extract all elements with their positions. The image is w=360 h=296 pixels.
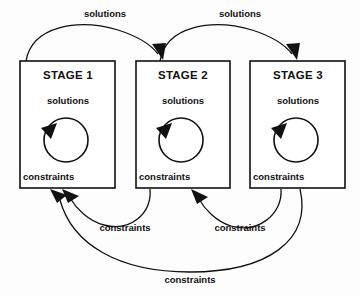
edge-solutions-stage1-stage2 — [26, 25, 166, 61]
edge-label-solutions-1-2: solutions — [84, 8, 126, 19]
stage-2-title: STAGE 2 — [158, 69, 208, 81]
stage-node-1[interactable]: STAGE 1 solutions constraints — [20, 61, 115, 188]
stage-1-solutions-label: solutions — [47, 95, 89, 106]
stage-2-solutions-label: solutions — [162, 95, 204, 106]
solutions-arrow-1-2-head — [152, 43, 166, 60]
stage-node-2[interactable]: STAGE 2 solutions constraints — [136, 61, 230, 188]
solutions-arc-2-3-path — [160, 25, 292, 61]
stage-3-constraints-label: constraints — [253, 171, 304, 182]
stage-3-solutions-label: solutions — [277, 95, 319, 106]
edge-label-constraints-3-2: constraints — [214, 222, 265, 233]
stage-flow-diagram: solutions solutions constraints constrai… — [0, 0, 360, 296]
solutions-arc-1-2-path — [26, 25, 158, 61]
edge-label-solutions-2-3: solutions — [219, 8, 261, 19]
stage-3-title: STAGE 3 — [273, 69, 323, 81]
constraints-arc-3-1-path — [60, 189, 302, 272]
edge-constraints-stage2-stage1 — [62, 189, 150, 227]
stage-2-constraints-label: constraints — [139, 171, 190, 182]
constraints-arrow-3-2-head — [191, 189, 208, 204]
stage-1-constraints-label: constraints — [23, 171, 74, 182]
diagram-canvas: solutions solutions constraints constrai… — [0, 0, 360, 296]
edge-solutions-stage2-stage3 — [160, 25, 300, 61]
edge-label-constraints-2-1: constraints — [99, 222, 150, 233]
edge-label-constraints-3-1: constraints — [164, 274, 215, 285]
solutions-arrow-2-3-head — [286, 43, 300, 60]
stage-1-title: STAGE 1 — [43, 69, 93, 81]
constraints-arc-2-1-path — [70, 189, 150, 227]
stage-node-3[interactable]: STAGE 3 solutions constraints — [250, 61, 345, 188]
